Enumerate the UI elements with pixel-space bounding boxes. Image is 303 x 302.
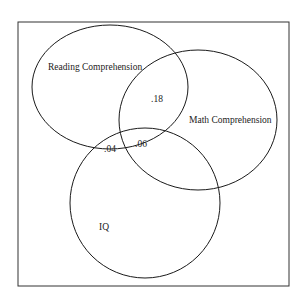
venn-diagram: Reading Comprehension Math Comprehension… xyxy=(0,0,303,302)
iq-circle xyxy=(70,128,220,278)
reading-comprehension-label: Reading Comprehension xyxy=(48,62,142,72)
iq-label: IQ xyxy=(99,222,109,232)
all-three-intersection-value: .06 xyxy=(135,139,147,149)
reading-iq-intersection-value: .04 xyxy=(104,144,116,154)
reading-math-intersection-value: .18 xyxy=(151,94,163,104)
math-comprehension-label: Math Comprehension xyxy=(189,115,272,125)
